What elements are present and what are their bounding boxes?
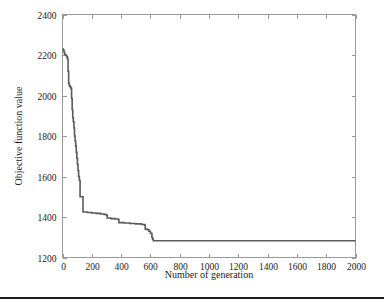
x-tick-label: 1400	[259, 262, 278, 272]
y-tick-label: 2200	[38, 51, 57, 61]
x-tick-label: 200	[85, 262, 100, 272]
y-tick-label: 2400	[38, 11, 57, 21]
x-tick-label: 600	[143, 262, 158, 272]
y-tick-label: 1800	[38, 132, 57, 142]
x-tick-label: 1600	[288, 262, 307, 272]
y-axis-title: Objective function value	[13, 86, 24, 185]
x-tick-label: 1800	[317, 262, 336, 272]
footer-divider	[0, 297, 384, 299]
x-tick-label: 0	[61, 262, 66, 272]
figure-container: 0200400600800100012001400160018002000 12…	[0, 0, 384, 303]
x-tick-label: 2000	[347, 262, 366, 272]
x-axis-title: Number of generation	[165, 269, 253, 280]
y-tick-label: 1200	[38, 254, 57, 264]
x-tick-label: 400	[114, 262, 129, 272]
y-tick-label: 1600	[38, 173, 57, 183]
y-tick-label: 1400	[38, 213, 57, 223]
y-tick-label: 2000	[38, 92, 57, 102]
convergence-line-chart: 0200400600800100012001400160018002000 12…	[0, 0, 384, 303]
